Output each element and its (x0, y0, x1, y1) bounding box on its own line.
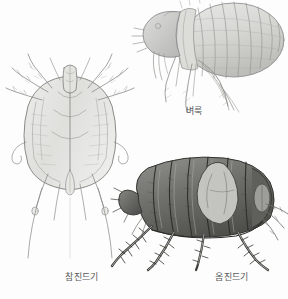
flea-illustration (136, 0, 288, 110)
scabies-mite-illustration (112, 148, 288, 270)
caption-tick: 참진드기 (36, 270, 128, 283)
caption-mite: 옴진드기 (186, 270, 278, 283)
illustration-plate: 벼룩 (0, 0, 288, 299)
caption-flea: 벼룩 (166, 104, 222, 117)
